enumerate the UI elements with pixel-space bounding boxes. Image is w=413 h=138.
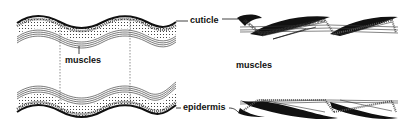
- right-bottom-band: [229, 100, 398, 119]
- left-top-band: [17, 16, 176, 48]
- left-bottom-band: [17, 82, 176, 117]
- right-top-band: [222, 15, 398, 39]
- label-epidermis: epidermis: [183, 103, 226, 112]
- label-muscles-left: muscles: [65, 56, 101, 65]
- label-muscles-right: muscles: [236, 61, 272, 70]
- label-cuticle: cuticle: [190, 16, 219, 25]
